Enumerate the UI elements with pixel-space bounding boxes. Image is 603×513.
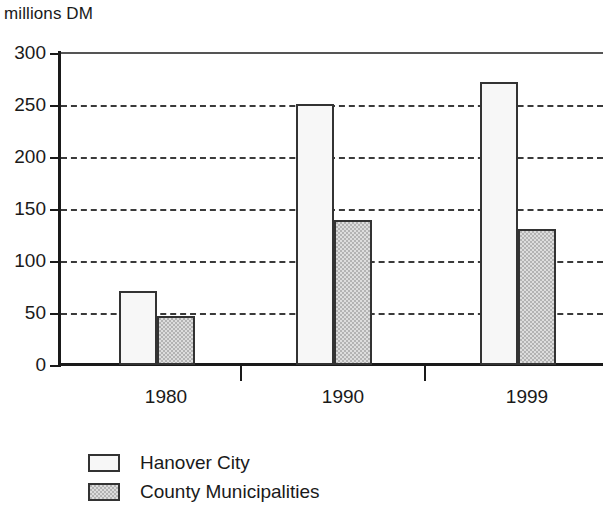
y-tick-300 (50, 53, 61, 55)
bar-1980-series-0 (119, 291, 157, 365)
x-tick-0 (240, 366, 242, 381)
x-tick-label-1990: 1990 (303, 386, 383, 408)
plot-area (61, 53, 603, 365)
x-tick-label-1980: 1980 (126, 386, 206, 408)
y-tick-label-50: 50 (25, 303, 46, 322)
y-tick-250 (50, 105, 61, 107)
legend-swatch-hanover-city (88, 454, 120, 472)
y-tick-50 (50, 313, 61, 315)
y-tick-label-300: 300 (14, 43, 46, 62)
legend-swatch-county-municipalities (88, 483, 120, 501)
bar-chart: millions DM 050100150200250300 198019901… (0, 0, 603, 513)
y-tick-label-100: 100 (14, 251, 46, 270)
y-tick-label-200: 200 (14, 147, 46, 166)
bar-1980-series-1 (157, 316, 195, 365)
bar-1990-series-0 (296, 104, 334, 365)
y-tick-0 (50, 365, 61, 367)
x-tick-label-1999: 1999 (487, 386, 567, 408)
legend-label-county-municipalities: County Municipalities (140, 481, 320, 503)
bar-1990-series-1 (334, 220, 372, 365)
chart-legend: Hanover City County Municipalities (88, 448, 320, 506)
bar-1999-series-1 (518, 229, 556, 365)
y-tick-label-250: 250 (14, 95, 46, 114)
y-tick-200 (50, 157, 61, 159)
x-tick-1 (424, 366, 426, 381)
y-axis-unit-label: millions DM (4, 4, 93, 24)
legend-item-county-municipalities: County Municipalities (88, 477, 320, 506)
legend-label-hanover-city: Hanover City (140, 452, 250, 474)
legend-item-hanover-city: Hanover City (88, 448, 320, 477)
bar-1999-series-0 (480, 82, 518, 365)
y-tick-label-150: 150 (14, 199, 46, 218)
y-tick-label-0: 0 (35, 355, 46, 374)
y-tick-100 (50, 261, 61, 263)
y-tick-150 (50, 209, 61, 211)
